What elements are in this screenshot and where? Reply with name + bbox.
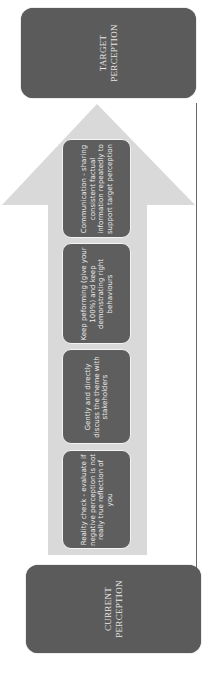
step-label: Keep peforming (give your 100%) and keep… [79,247,113,341]
step-box-keep-performing: Keep peforming (give your 100%) and keep… [62,243,131,344]
divider-line [196,103,197,585]
step-box-reality-check: Reality check - evaluate if negative per… [62,450,131,549]
step-label: Gently and directly discuss the theme wi… [84,350,110,444]
step-box-communication: Communication - sharing consistent factu… [62,139,131,238]
current-perception-label: CURRENT PERCEPTION [103,580,125,638]
current-perception-box: CURRENT PERCEPTION [26,565,201,653]
step-label: Communication - sharing consistent factu… [79,142,113,236]
step-box-discuss-with-stakeholders: Gently and directly discuss the theme wi… [62,349,131,444]
step-label: Reality check - evaluate if negative per… [79,453,113,547]
